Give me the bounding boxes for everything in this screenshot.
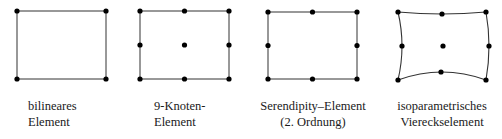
label-line: (2. Ordnung) xyxy=(260,114,366,130)
node xyxy=(483,77,488,82)
node xyxy=(14,76,19,81)
node xyxy=(399,43,404,48)
serendipity-element-shape xyxy=(265,9,359,81)
node xyxy=(354,43,359,48)
label-line: 9-Knoten- xyxy=(154,98,205,114)
node xyxy=(182,8,187,13)
node xyxy=(440,43,445,48)
node xyxy=(137,42,142,47)
label-line: Element xyxy=(28,114,77,130)
label-line: isoparametrisches xyxy=(397,98,487,114)
label-line: bilineares xyxy=(28,98,77,114)
isoparametric-element-shape xyxy=(395,9,491,82)
node xyxy=(182,76,187,81)
node xyxy=(103,76,108,81)
node xyxy=(182,42,187,47)
node xyxy=(310,76,315,81)
nine-node-element-shape xyxy=(137,8,231,81)
node xyxy=(265,43,270,48)
bilinear-element-shape xyxy=(14,8,108,81)
node xyxy=(14,8,19,13)
label-line: Serendipity–Element xyxy=(260,98,366,114)
node xyxy=(226,42,231,47)
node xyxy=(395,9,400,14)
label-line: Element xyxy=(154,114,205,130)
node xyxy=(226,76,231,81)
node xyxy=(137,76,142,81)
node xyxy=(439,11,444,16)
node xyxy=(486,43,491,48)
nine-node-element-label: 9-Knoten- Element xyxy=(154,98,205,130)
bilinear-element-label: bilineares Element xyxy=(28,98,77,130)
node xyxy=(137,8,142,13)
serendipity-element-label: Serendipity–Element (2. Ordnung) xyxy=(260,98,366,130)
node xyxy=(438,69,443,74)
node xyxy=(265,9,270,14)
node xyxy=(103,8,108,13)
node xyxy=(226,8,231,13)
node xyxy=(395,77,400,82)
node xyxy=(310,9,315,14)
node xyxy=(483,9,488,14)
node xyxy=(354,76,359,81)
node xyxy=(265,76,270,81)
isoparametric-element-label: isoparametrisches Viereckselement xyxy=(397,98,487,130)
label-line: Viereckselement xyxy=(397,114,487,130)
node xyxy=(354,9,359,14)
